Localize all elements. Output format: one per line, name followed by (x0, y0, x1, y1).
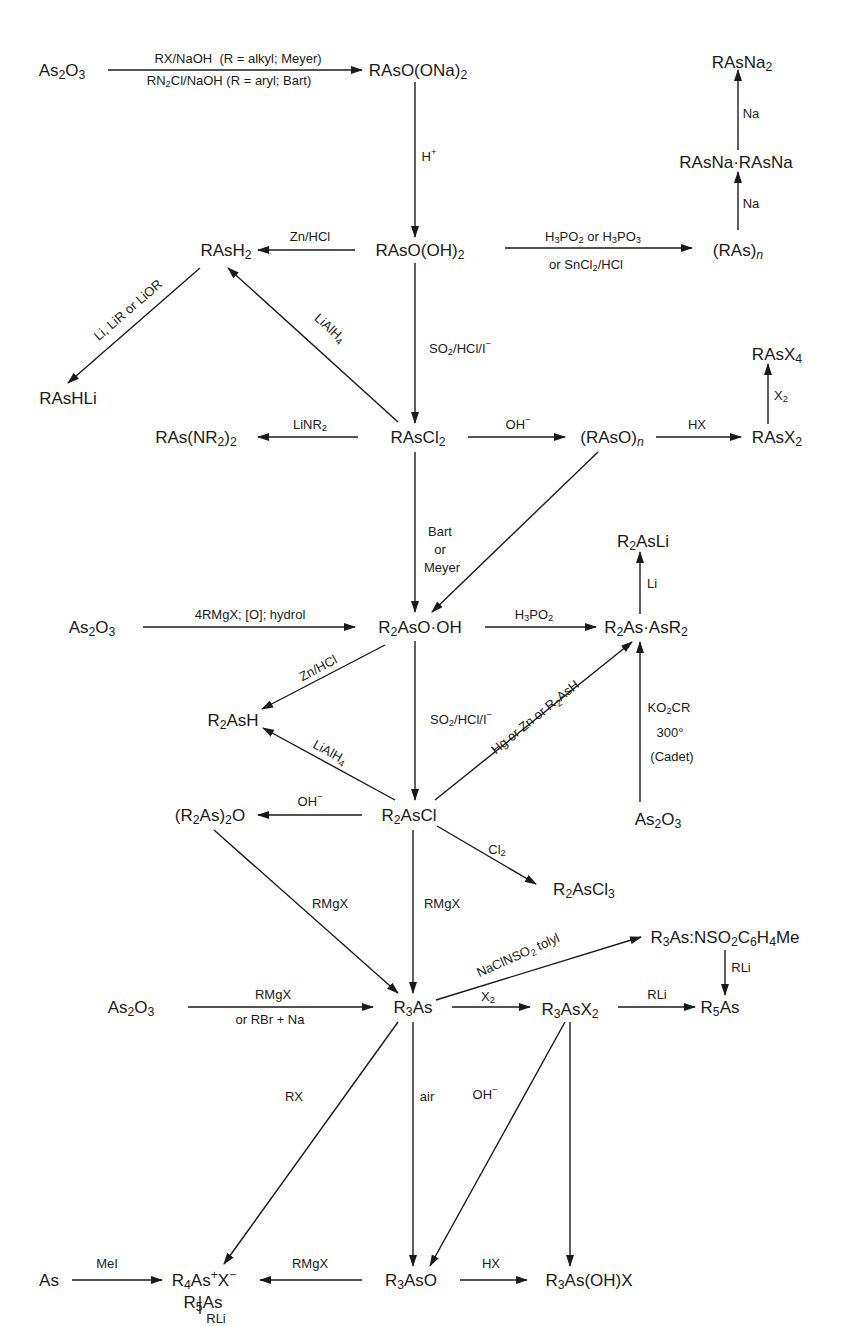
compound-r4asx: R4As+X− (172, 1272, 237, 1289)
reagent-label: RMgX (424, 897, 460, 910)
compound-as2o3-cadet: As2O3 (635, 811, 682, 828)
arrow-r2ascl-to-r2ash (263, 728, 395, 800)
arrow-r3asx2-to-r3aso (430, 1022, 565, 1266)
reagent-label: KO2CR (648, 701, 691, 714)
reagent-label: RMgX (255, 988, 291, 1001)
compound-ras-n: (RAs)n (713, 242, 763, 259)
compound-rasx4: RAsX4 (752, 346, 802, 363)
compound-r3asx2: R3AsX2 (541, 1001, 598, 1018)
compound-r5as-right: R5As (701, 999, 740, 1016)
reagent-label: or (434, 543, 446, 556)
reagent-label: HX (688, 418, 706, 431)
arrow-r3as-to-r4asx (224, 1022, 398, 1264)
compound-r2asli: R2AsLi (617, 533, 669, 550)
reagent-label: air (420, 1090, 434, 1103)
reagent-label: RLi (206, 1312, 226, 1325)
compound-r2as-asr2: R2As·AsR2 (604, 619, 688, 636)
reagent-label: or RBr + Na (236, 1013, 305, 1026)
reagent-label: 4RMgX; [O]; hydrol (195, 608, 306, 621)
compound-r5as-bottom: R5As (184, 1294, 223, 1311)
arrow-r2aso_oh-to-r2ash (262, 645, 385, 709)
arrow-rash2-to-rashli (68, 268, 200, 383)
compound-rashli: RAsHLi (39, 390, 97, 407)
compound-raso-n: (RAsO)n (580, 429, 643, 446)
compound-r3as-oh-x: R3As(OH)X (545, 1272, 632, 1289)
arrow-raso_n-to-r2aso_oh (432, 452, 598, 612)
reagent-label: RLi (647, 988, 667, 1001)
reagent-label: RX/NaOH (R = alkyl; Meyer) (154, 52, 321, 65)
reagent-label: Zn/HCl (290, 230, 330, 243)
reagent-label: Cl2 (488, 843, 505, 856)
reagent-label: SO2/HCl/I− (430, 713, 492, 726)
compound-raso-oh2: RAsO(OH)2 (376, 242, 465, 259)
compound-r2ascl: R2AsCl (382, 807, 437, 824)
compound-rasx2: RAsX2 (752, 429, 802, 446)
reagent-label: OH− (473, 1088, 498, 1101)
reagent-label: RLi (731, 961, 751, 974)
reagent-label: SO2/HCl/I− (429, 342, 491, 355)
reagent-label: Na (743, 107, 760, 120)
reagent-label: OH− (506, 418, 531, 431)
reagent-label: RX (285, 1090, 303, 1103)
reagent-label: Meyer (424, 561, 460, 574)
compound-as2o3-low: As2O3 (108, 999, 155, 1016)
compound-as2o3-top: As2O3 (39, 62, 86, 79)
compound-r2ascl3: R2AsCl3 (553, 881, 615, 898)
reagent-label: H+ (422, 150, 437, 163)
compound-r3aso: R3AsO (385, 1272, 437, 1289)
reagent-label: Bart (428, 525, 452, 538)
arrow-rascl2-to-rash2 (228, 268, 398, 422)
reagent-label: Li (647, 577, 657, 590)
compound-ras-nr2-2: RAs(NR2)2 (155, 429, 237, 446)
compound-rash2: RAsH2 (200, 242, 251, 259)
compound-r3as-nso2: R3As:NSO2C6H4Me (650, 929, 799, 946)
reagent-label: or SnCl2/HCl (549, 258, 623, 271)
arrow-r2as_2o-to-r3as (214, 830, 398, 993)
compound-rasoona2: RAsO(ONa)2 (369, 62, 467, 79)
reagent-label: RMgX (312, 897, 348, 910)
compound-r3as: R3As (394, 999, 433, 1016)
reagent-label: HX (482, 1257, 500, 1270)
reagent-label: H3PO2 (515, 608, 554, 621)
compound-as2o3-mid: As2O3 (69, 619, 116, 636)
reagent-label: RMgX (292, 1257, 328, 1270)
compound-as: As (39, 1272, 59, 1289)
reagent-label: Na (743, 197, 760, 210)
reagent-label: RN2Cl/NaOH (R = aryl; Bart) (147, 74, 311, 87)
reagent-label: X2 (774, 389, 788, 402)
arrow-r2ascl-to-r2ascl3 (437, 826, 536, 884)
reagent-label: (Cadet) (650, 750, 693, 763)
reagent-label: 300° (657, 726, 684, 739)
compound-rascl2: RAsCl2 (391, 429, 446, 446)
compound-r2ash: R2AsH (207, 712, 258, 729)
reagent-label: OH− (298, 795, 323, 808)
compound-r2as-2o: (R2As)2O (175, 807, 245, 824)
compound-rasna-dimer: RAsNa·RAsNa (679, 154, 792, 171)
reagent-label: MeI (96, 1257, 118, 1270)
reagent-label: H3PO2 or H3PO3 (545, 230, 641, 243)
compound-r2aso-oh: R2AsO·OH (378, 619, 461, 636)
compound-rasna2: RAsNa2 (712, 54, 773, 71)
reagent-label: X2 (481, 990, 495, 1003)
reagent-label: LiNR2 (293, 418, 327, 431)
